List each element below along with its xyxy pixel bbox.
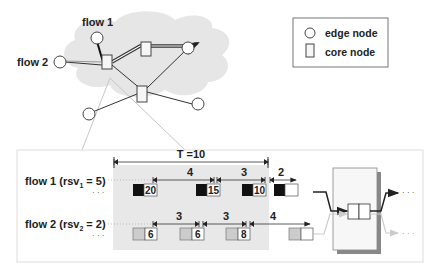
legend-edge-label: edge node (325, 27, 378, 39)
edge-node-icon (305, 28, 315, 38)
flow1-gap: 3 (241, 166, 247, 178)
core-node-icon (306, 44, 314, 57)
flow1-ellipsis: · · · (92, 188, 104, 197)
svg-text:6: 6 (148, 229, 154, 240)
flow2-gap: 3 (176, 210, 182, 222)
output-ellipsis: · · · (402, 229, 414, 238)
core-node (141, 42, 151, 56)
period-label: T =10 (177, 148, 205, 160)
flow2-rsv-label: flow 2 (rsv2 = 2) (25, 218, 106, 232)
flow2-gap: 3 (223, 210, 229, 222)
svg-text:6: 6 (195, 229, 201, 240)
detail-panel: T =10 flow 1 (rsv1 = 5) · · · 4 3 2 20 1… (17, 148, 423, 262)
edge-node (83, 108, 95, 120)
flow1-packet: 15 (196, 184, 220, 196)
legend-core-label: core node (325, 46, 375, 58)
core-node (102, 55, 112, 69)
queue-slot (348, 204, 359, 219)
flow1-gap: 2 (278, 166, 284, 178)
svg-text:15: 15 (208, 185, 220, 196)
output-ellipsis: · · · (402, 188, 414, 197)
flow1-gap: 4 (187, 166, 194, 178)
flow2-packet: 8 (226, 228, 250, 240)
flow2-ellipsis: · · · (92, 231, 104, 240)
legend: edge node core node (293, 18, 388, 67)
queue-slot (359, 204, 370, 219)
flow1-packet: 10 (242, 184, 266, 196)
edge-node (54, 56, 66, 68)
edge-node (192, 98, 204, 110)
edge-node (182, 42, 194, 54)
flow2-packet: 6 (133, 228, 157, 240)
flow2-packet (289, 228, 313, 240)
flow2-packet: 6 (180, 228, 204, 240)
network-diagram: flow 1 flow 2 edge node core node T =10 … (0, 0, 437, 271)
flow1-packet (274, 184, 298, 196)
flow1-network-label: flow 1 (82, 16, 113, 28)
flow1-packet: 20 (133, 184, 157, 196)
flow2-gap: 4 (270, 210, 277, 222)
flow1-rsv-label: flow 1 (rsv1 = 5) (25, 175, 106, 189)
svg-text:10: 10 (254, 185, 266, 196)
core-node (137, 86, 147, 102)
flow2-network-label: flow 2 (17, 56, 48, 68)
edge-node (91, 32, 103, 44)
svg-text:8: 8 (241, 229, 247, 240)
svg-text:20: 20 (145, 185, 157, 196)
